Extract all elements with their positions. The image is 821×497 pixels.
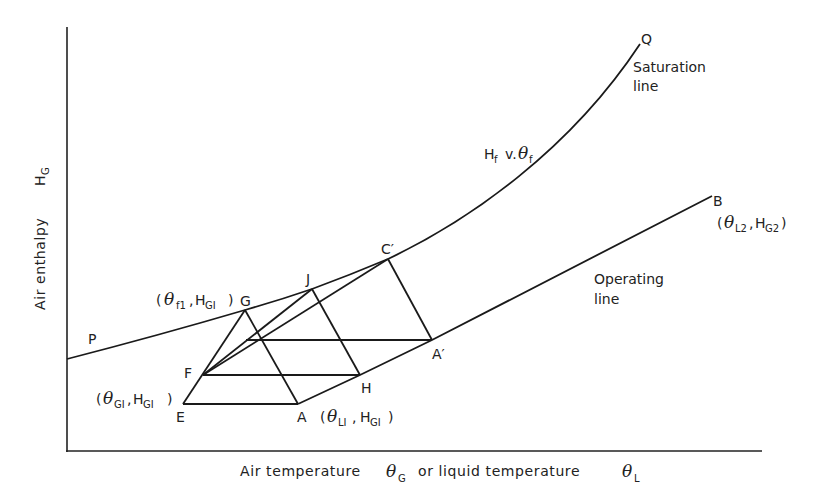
point-labels: P Q B G J C′ F E A H A′ [88,31,723,425]
label-E: E [176,409,185,425]
svg-text:θ: θ [622,461,632,481]
x-axis-title: Air temperature θ G or liquid temperatur… [240,461,640,484]
svg-text:LI: LI [338,417,347,428]
line-J-H [312,289,360,375]
label-Q: Q [641,31,652,47]
svg-text:θ: θ [386,461,396,481]
svg-text:): ) [228,292,233,308]
line-F-J [203,289,312,375]
svg-text:GI: GI [143,399,154,410]
svg-text:,: , [127,391,131,407]
svg-text:H: H [484,146,495,162]
enthalpy-temperature-diagram: P Q B G J C′ F E A H A′ ( θ f1 , H GI ) … [0,0,821,497]
svg-text:L2: L2 [735,223,747,234]
svg-text:θ: θ [724,212,734,232]
svg-text:Air temperature: Air temperature [240,463,361,479]
svg-text:Saturation: Saturation [633,59,706,75]
operating-line [298,196,712,404]
line-C-prime-A-prime [388,259,432,340]
coord-A: ( θ LI , H GI ) [320,406,393,428]
svg-text:or liquid temperature: or liquid temperature [418,463,580,479]
svg-text:Operating: Operating [594,271,664,287]
line-G-A [245,310,298,404]
label-B: B [713,193,723,209]
svg-text:f: f [529,154,533,165]
operating-line-label: Operating line [594,271,664,307]
svg-text:H: H [755,215,766,231]
saturation-line [67,44,640,359]
line-E-G [183,310,245,404]
svg-text:(: ( [320,409,325,425]
svg-text:GI: GI [370,417,381,428]
svg-text:G: G [398,473,406,484]
y-axis-title: Air enthalpy H G [32,167,51,310]
svg-text:L: L [634,473,640,484]
svg-text:): ) [781,215,786,231]
svg-text:): ) [388,409,393,425]
svg-text:,: , [749,215,753,231]
svg-text:θ: θ [164,289,174,309]
svg-text:GI: GI [114,399,125,410]
svg-text:H: H [133,391,144,407]
svg-text:line: line [594,291,619,307]
svg-text:θ: θ [327,406,337,426]
saturation-equation-label: H f v. θ f [484,143,533,165]
svg-text:GI: GI [205,300,216,311]
label-A-prime: A′ [432,346,445,362]
svg-text:f: f [494,154,498,165]
svg-text:(: ( [156,292,161,308]
coord-G: ( θ f1 , H GI ) [156,289,233,311]
svg-text:v.: v. [505,146,517,162]
svg-text:(: ( [96,391,101,407]
svg-text:H: H [32,175,48,186]
svg-text:G2: G2 [765,223,779,234]
svg-text:(: ( [717,215,722,231]
svg-text:): ) [167,391,172,407]
svg-text:Air enthalpy: Air enthalpy [32,218,48,310]
coord-E: ( θ GI , H GI ) [96,388,172,410]
label-C-prime: C′ [381,241,394,257]
svg-text:f1: f1 [176,300,186,311]
label-F: F [184,365,192,381]
svg-text:G: G [40,167,51,175]
label-G: G [240,293,251,309]
svg-text:line: line [633,78,658,94]
line-F-C-prime [203,259,388,375]
label-H: H [361,380,372,396]
svg-text:θ: θ [103,388,113,408]
svg-text:,: , [189,292,193,308]
label-A: A [297,409,307,425]
coord-B: ( θ L2 , H G2 ) [717,212,786,234]
svg-text:H: H [195,292,206,308]
label-P: P [88,331,96,347]
svg-text:,: , [352,409,356,425]
saturation-line-label: Saturation line [633,59,706,94]
svg-text:H: H [360,409,371,425]
label-J: J [305,271,310,287]
svg-text:θ: θ [518,143,528,163]
